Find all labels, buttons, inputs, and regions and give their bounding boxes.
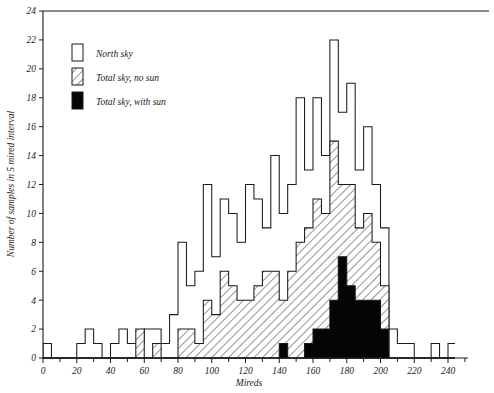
x-tick-label: 200 [373,366,388,376]
x-tick-label: 60 [140,366,150,376]
x-tick-label: 120 [238,366,253,376]
legend-swatch-hatch [72,68,83,85]
x-axis-title: Mireds [235,378,263,388]
x-tick-label: 240 [441,366,456,376]
x-tick-label: 20 [72,366,82,376]
chart-canvas: 0246810121416182022240204060801001201401… [0,0,494,393]
series-layer [43,40,465,358]
legend-item-2: Total sky, with sun [72,92,166,109]
y-tick-label: 4 [31,296,36,306]
y-tick-label: 14 [27,151,37,161]
x-tick-label: 40 [106,366,116,376]
x-tick-label: 100 [205,366,220,376]
y-tick-label: 10 [27,209,37,219]
legend-swatch-solid [72,92,83,109]
y-tick-label: 20 [27,64,37,74]
x-tick-label: 140 [272,366,287,376]
legend-item-1: Total sky, no sun [72,68,159,85]
x-tick-label: 0 [41,366,46,376]
histogram-chart: 0246810121416182022240204060801001201401… [0,0,494,393]
legend-item-0: North sky [72,44,133,61]
y-axis-title: Number of samples in 5 mired interval [6,110,16,258]
y-tick-label: 22 [27,35,37,45]
x-tick-label: 220 [407,366,422,376]
y-tick-label: 0 [31,353,36,363]
y-tick-label: 2 [31,324,36,334]
legend-label: Total sky, no sun [96,73,159,83]
y-tick-label: 18 [27,93,37,103]
x-tick-label: 80 [173,366,183,376]
x-tick-label: 180 [340,366,355,376]
x-tick-label: 160 [306,366,321,376]
y-tick-label: 8 [31,238,36,248]
y-tick-label: 24 [27,6,37,16]
legend-swatch-open [72,44,83,61]
chart-legend: North skyTotal sky, no sunTotal sky, wit… [72,44,166,109]
legend-label: Total sky, with sun [96,97,166,107]
y-tick-label: 16 [27,122,37,132]
y-tick-label: 6 [31,267,36,277]
y-tick-label: 12 [27,180,37,190]
legend-label: North sky [95,49,133,59]
